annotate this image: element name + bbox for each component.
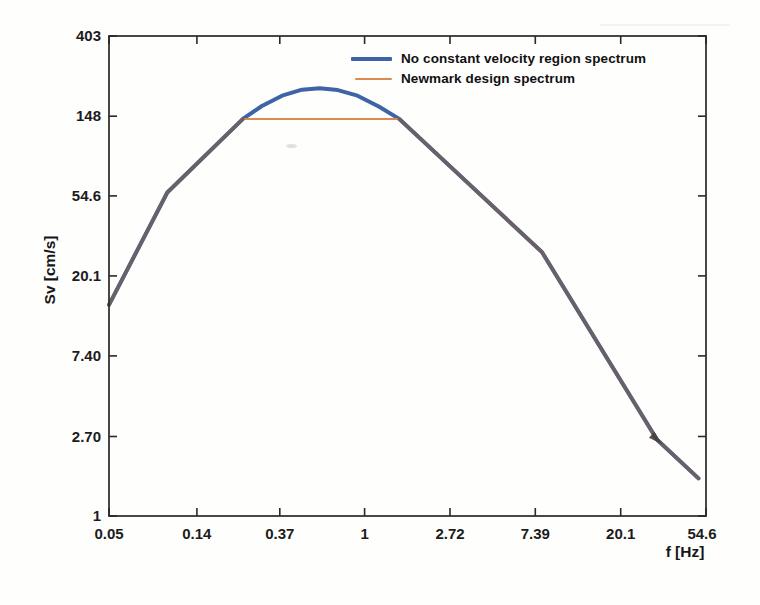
x-tick-label: 20.1 (606, 525, 635, 543)
x-tick-label: 2.72 (435, 525, 464, 543)
x-tick-label: 0.05 (94, 525, 123, 543)
y-tick-label: 148 (37, 107, 101, 125)
y-tick-label: 1 (37, 507, 101, 525)
y-tick-label: 403 (37, 27, 101, 45)
x-tick-label: 0.14 (182, 525, 211, 543)
y-tick-label: 54.6 (37, 187, 101, 205)
legend-item-orange: Newmark design spectrum (351, 69, 646, 88)
y-tick-label: 7.40 (37, 347, 101, 365)
x-axis-label: f [Hz] (666, 543, 705, 561)
legend-line-icon-blue (351, 57, 392, 61)
axes-box (109, 36, 706, 516)
legend: No constant velocity region spectrum New… (351, 49, 646, 88)
legend-label: No constant velocity region spectrum (401, 51, 646, 66)
legend-item-blue: No constant velocity region spectrum (351, 49, 646, 68)
y-tick-label: 2.70 (37, 428, 101, 446)
x-tick-label: 0.37 (265, 525, 294, 543)
series-overlap-segment (109, 119, 243, 305)
figure-scanned-spectrum-plot: 0.050.140.3712.727.3920.154.6 12.707.402… (0, 0, 760, 605)
x-tick-label: 1 (360, 525, 368, 543)
series-newmark-design (109, 119, 699, 479)
plot-canvas (0, 0, 760, 605)
legend-line-icon-orange (355, 78, 392, 80)
series-overlap-segment (399, 119, 698, 479)
y-axis-label: Sv [cm/s] (41, 236, 59, 305)
x-tick-label: 54.6 (687, 525, 716, 543)
series-no-constant-velocity (109, 88, 699, 478)
x-tick-label: 7.39 (521, 525, 550, 543)
legend-label: Newmark design spectrum (401, 71, 575, 86)
